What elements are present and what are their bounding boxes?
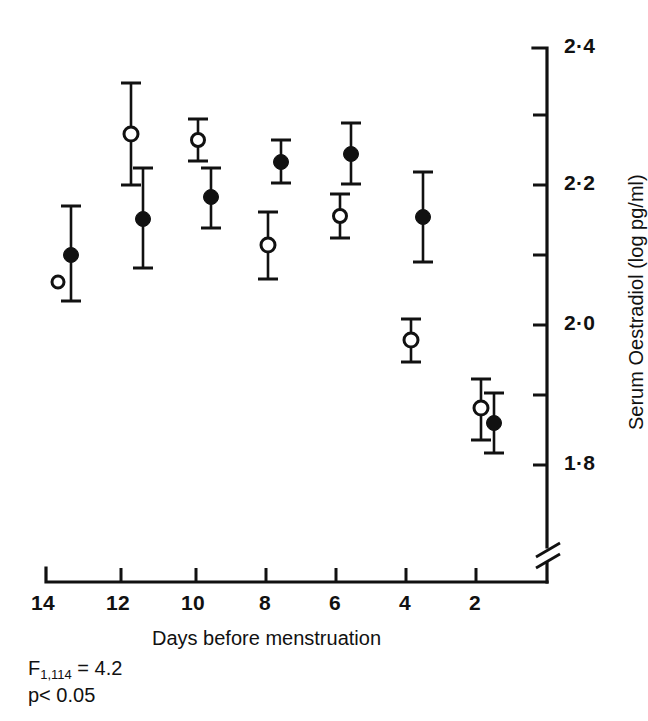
x-tick-label-6: 6 bbox=[329, 591, 341, 615]
data-group-day-8 bbox=[258, 140, 291, 279]
x-axis bbox=[46, 568, 547, 582]
y-axis-line-upper bbox=[533, 48, 547, 547]
y-tick-label-1-8: 1·8 bbox=[564, 451, 595, 475]
data-point-filled-5 bbox=[344, 147, 359, 162]
data-point-open-3 bbox=[192, 134, 205, 147]
data-group-day-13 bbox=[52, 206, 81, 301]
y-axis bbox=[533, 48, 560, 582]
x-tick-label-10: 10 bbox=[181, 591, 205, 615]
f-subscript: 1,114 bbox=[40, 667, 72, 682]
x-tick-label-2: 2 bbox=[469, 591, 481, 615]
data-point-open-6 bbox=[404, 333, 418, 347]
statistics-annotation: F1,114 = 4.2 p< 0.05 bbox=[28, 655, 122, 709]
y-axis-title: Serum Oestradiol (log pg/ml) bbox=[625, 174, 648, 430]
data-point-open-7 bbox=[474, 401, 488, 415]
data-point-filled-1 bbox=[64, 248, 79, 263]
data-group-day-12 bbox=[121, 83, 153, 268]
x-tick-label-4: 4 bbox=[399, 591, 411, 615]
data-point-open-2 bbox=[124, 127, 138, 141]
x-axis-title: Days before menstruation bbox=[152, 627, 381, 650]
data-point-filled-7 bbox=[487, 416, 502, 431]
data-point-filled-4 bbox=[274, 155, 289, 170]
data-group-day-6 bbox=[330, 123, 361, 238]
data-group-day-2 bbox=[471, 379, 504, 453]
data-point-filled-6 bbox=[416, 210, 431, 225]
data-point-filled-2 bbox=[136, 212, 151, 227]
f-statistic-line: F1,114 = 4.2 bbox=[28, 655, 122, 682]
data-point-open-1 bbox=[52, 276, 64, 288]
y-tick-label-2-0: 2·0 bbox=[564, 311, 595, 335]
data-group-day-4 bbox=[401, 172, 433, 362]
f-value: = 4.2 bbox=[72, 657, 123, 679]
p-value-line: p< 0.05 bbox=[28, 682, 122, 709]
data-point-open-5 bbox=[334, 210, 347, 223]
x-tick-label-12: 12 bbox=[106, 591, 130, 615]
data-group-day-10 bbox=[188, 119, 221, 228]
x-tick-label-8: 8 bbox=[259, 591, 271, 615]
f-symbol: F bbox=[28, 657, 40, 679]
y-tick-label-2-2: 2·2 bbox=[564, 171, 595, 195]
data-point-open-4 bbox=[261, 238, 275, 252]
data-point-filled-3 bbox=[204, 190, 219, 205]
x-tick-label-14: 14 bbox=[31, 591, 55, 615]
y-tick-label-2-4: 2·4 bbox=[564, 34, 595, 58]
